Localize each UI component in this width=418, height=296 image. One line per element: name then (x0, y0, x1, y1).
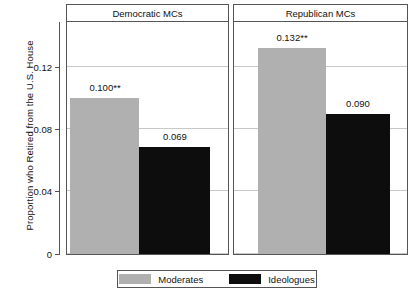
legend-entry-moderates: Moderates (119, 274, 203, 285)
legend-label-ideologues: Ideologues (268, 274, 314, 285)
bar-chart: Proportion who Retired from the U.S. Hou… (0, 0, 418, 296)
bar-democratic-moderates (70, 98, 139, 254)
bar-republican-moderates (258, 48, 326, 254)
y-tick-label-0-04: 0.04 (18, 186, 52, 197)
bar-value-republican-ideologues: 0.090 (346, 98, 370, 109)
bar-value-republican-moderates: 0.132** (276, 32, 307, 43)
bar-value-democratic-ideologues: 0.069 (163, 131, 187, 142)
y-axis-line (59, 22, 60, 255)
y-tick-label-0-08: 0.08 (18, 124, 52, 135)
bar-value-democratic-moderates: 0.100** (89, 82, 120, 93)
panel-democratic-mcs: Democratic MCs 0.100** 0.069 (66, 4, 229, 255)
y-tick-mark-0-08 (55, 129, 60, 130)
panel-strip-republican-mcs: Republican MCs (233, 4, 408, 22)
legend-swatch-moderates (119, 274, 151, 284)
panel-title-democratic-mcs: Democratic MCs (112, 8, 182, 19)
panel-body-democratic-mcs: 0.100** 0.069 (66, 22, 229, 255)
legend-label-moderates: Moderates (158, 274, 203, 285)
legend-entry-ideologues: Ideologues (229, 274, 314, 285)
y-tick-mark-0 (55, 254, 60, 255)
y-tick-label-0: 0 (18, 249, 52, 260)
y-tick-mark-0-04 (55, 191, 60, 192)
y-axis-title: Proportion who Retired from the U.S. Hou… (24, 11, 35, 261)
panel-republican-mcs: Republican MCs 0.132** 0.090 (233, 4, 408, 255)
y-tick-mark-0-12 (55, 67, 60, 68)
panel-body-republican-mcs: 0.132** 0.090 (233, 22, 408, 255)
bar-republican-ideologues (326, 114, 390, 254)
panel-title-republican-mcs: Republican MCs (286, 8, 356, 19)
gridline-0-12 (67, 66, 228, 67)
panel-strip-democratic-mcs: Democratic MCs (66, 4, 229, 22)
legend-swatch-ideologues (229, 274, 261, 284)
bar-democratic-ideologues (139, 147, 210, 254)
chart-legend: Moderates Ideologues (117, 270, 317, 288)
y-tick-label-0-12: 0.12 (18, 62, 52, 73)
